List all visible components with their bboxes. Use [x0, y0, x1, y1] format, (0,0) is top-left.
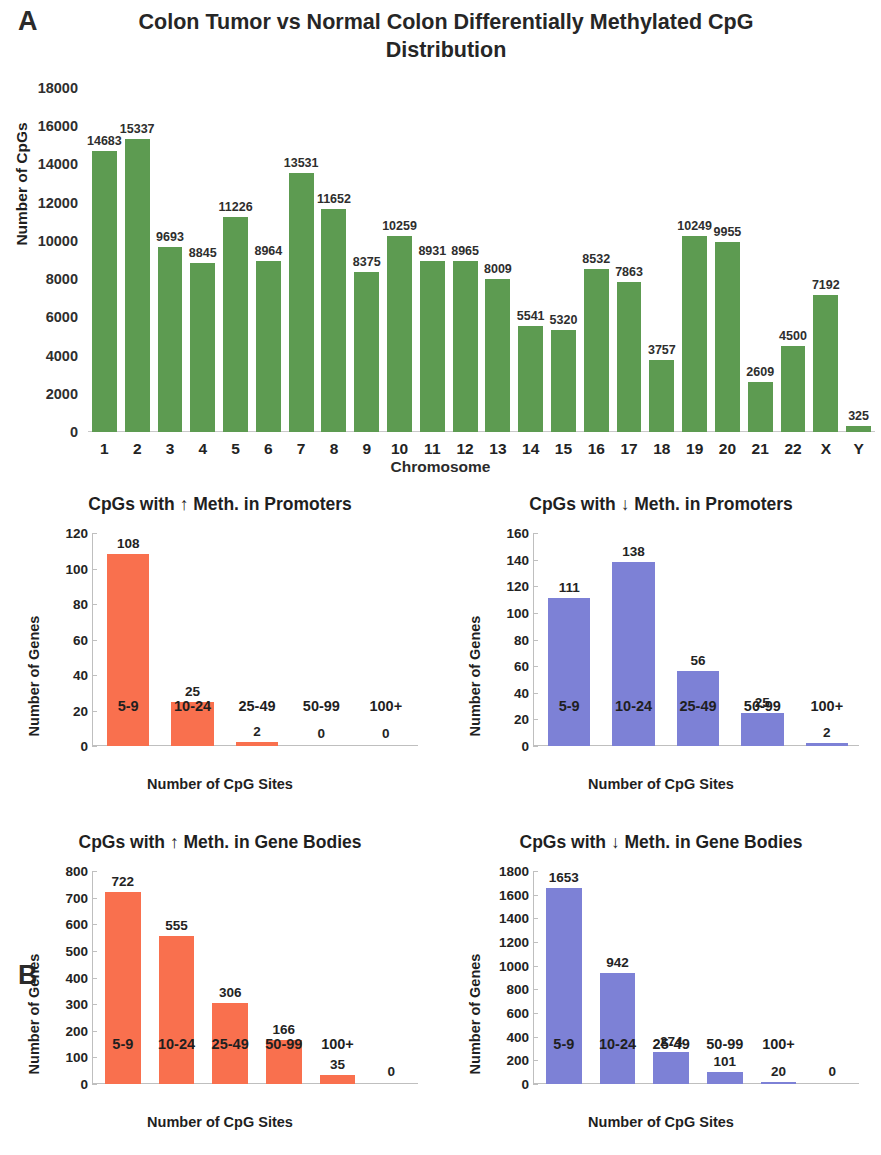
chart-a-bar [518, 326, 543, 432]
chart-bar [707, 1072, 742, 1084]
chart-a-value-label: 8931 [418, 244, 446, 258]
chart-a-value-label: 11226 [219, 200, 253, 214]
chart-a-bar-group: 8375 [350, 88, 383, 432]
chart-bar-group: 1653 [537, 871, 591, 1084]
chart-bar-group: 0 [289, 533, 353, 746]
chart-a-x-tick-label: 19 [686, 440, 703, 458]
chart-a-title: Colon Tumor vs Normal Colon Differential… [96, 8, 796, 65]
chart-a-x-tick-label: 17 [620, 440, 637, 458]
chart-a-value-label: 8965 [451, 244, 479, 258]
chart-a-bar-group: 10259 [383, 88, 416, 432]
chart-a-value-label: 8532 [582, 252, 610, 266]
chart-a-bar [321, 209, 346, 432]
chart-x-tick-label: 5-9 [559, 698, 580, 714]
chart-y-tick-label: 1600 [499, 887, 529, 902]
chart-value-label: 138 [622, 544, 645, 559]
chart-a-bar [256, 261, 281, 432]
chart-y-tick-label: 0 [521, 739, 529, 754]
chart-a-value-label: 325 [848, 409, 869, 423]
chart-y-tick-label: 120 [65, 526, 88, 541]
chart-a-value-label: 5320 [550, 313, 578, 327]
chart-a-bar [420, 261, 445, 432]
chart-a-bar-group: 8964 [252, 88, 285, 432]
chart-y-tick-label: 1800 [499, 864, 529, 879]
chart-a-value-label: 14683 [87, 134, 122, 148]
chart-a-value-label: 3757 [648, 343, 676, 357]
chart-a-value-label: 2609 [746, 365, 774, 379]
chart-a-value-label: 11652 [317, 192, 351, 206]
chart-y-tick-label: 500 [65, 943, 88, 958]
chart-bar-group: 20 [752, 871, 806, 1084]
chart-a-bar-group: 7863 [613, 88, 646, 432]
chart-bar [548, 598, 590, 746]
chart-a-value-label: 13531 [284, 156, 319, 170]
chart-x-tick-label: 5-9 [112, 1036, 133, 1052]
chart-a-bar-group: 4500 [777, 88, 810, 432]
chart-value-label: 0 [318, 726, 326, 741]
chart-value-label: 555 [165, 918, 188, 933]
y-axis-line [533, 871, 534, 1084]
chart-x-tick-label: 50-99 [744, 698, 781, 714]
chart-x-tick-label: 100+ [369, 698, 402, 714]
chart-a-bar-group: 8009 [482, 88, 515, 432]
chart-x-tick-label: 50-99 [303, 698, 340, 714]
chart-x-axis-title: Number of CpG Sites [441, 776, 881, 792]
chart-hyper-meth-gene-bodies: CpGs with ↑ Meth. in Gene Bodies Number … [0, 816, 440, 1154]
chart-value-label: 0 [382, 726, 390, 741]
chart-a-y-tick-label: 10000 [38, 233, 78, 249]
chart-y-tick-mark [533, 1084, 538, 1085]
chart-bar-group: 722 [96, 871, 150, 1084]
chart-bar [600, 973, 635, 1084]
chart-value-label: 2 [253, 724, 261, 739]
chart-y-tick-label: 300 [65, 997, 88, 1012]
chart-a-bar-group: 7192 [809, 88, 842, 432]
chart-plot-area: 1653942274101200 [537, 871, 859, 1084]
chart-a-x-tick-label: 18 [653, 440, 670, 458]
chart-a-value-label: 8845 [189, 246, 217, 260]
chart-a-bar [649, 360, 674, 432]
chart-a-value-label: 8964 [254, 244, 282, 258]
chart-y-tick-label: 80 [514, 632, 529, 647]
chart-a-x-tick-label: 21 [752, 440, 769, 458]
chart-plot-area: 11113856252 [537, 533, 859, 746]
chart-a-bar-group: 9955 [711, 88, 744, 432]
chart-a-bar [617, 282, 642, 432]
chart-a-bar [781, 346, 806, 432]
chart-x-tick-label: 10-24 [615, 698, 652, 714]
chart-bar-group: 0 [805, 871, 859, 1084]
chart-x-tick-label: 100+ [810, 698, 843, 714]
chart-a-bar [223, 217, 248, 432]
chart-a-bar-group: 9693 [154, 88, 187, 432]
chart-y-tick-label: 160 [506, 526, 529, 541]
chart-a-x-tick-label: 4 [198, 440, 207, 458]
chart-y-tick-label: 0 [521, 1077, 529, 1092]
chart-bar-group: 111 [537, 533, 601, 746]
chart-y-tick-label: 20 [73, 703, 88, 718]
chart-y-tick-label: 200 [506, 1053, 529, 1068]
chart-bar-group: 108 [96, 533, 160, 746]
chart-y-tick-label: 700 [65, 890, 88, 905]
chart-a-x-tick-label: 5 [231, 440, 240, 458]
chart-bar [761, 1082, 796, 1085]
chart-x-tick-label: 25-49 [679, 698, 716, 714]
chart-value-label: 722 [112, 874, 135, 889]
chart-a-x-tick-label: 9 [362, 440, 371, 458]
chart-a-value-label: 15337 [120, 122, 155, 136]
chart-a-bar [354, 272, 379, 432]
chart-bar-group: 35 [311, 871, 365, 1084]
chart-a-bar-group: 10249 [678, 88, 711, 432]
chart-a-x-tick-label: X [821, 440, 831, 458]
chart-value-label: 111 [559, 580, 580, 595]
chart-y-tick-label: 400 [65, 970, 88, 985]
chart-title: CpGs with ↑ Meth. in Gene Bodies [0, 832, 440, 853]
chart-a-y-tick-label: 14000 [38, 156, 78, 172]
chart-a-y-tick-label: 4000 [46, 348, 78, 364]
chart-value-label: 20 [771, 1064, 786, 1079]
chart-a-bar-group: 3757 [645, 88, 678, 432]
chart-x-tick-label: 5-9 [553, 1036, 574, 1052]
chart-bar-group: 25 [160, 533, 224, 746]
chart-a-x-tick-label: 14 [522, 440, 539, 458]
chart-a-bar [748, 382, 773, 432]
chart-y-tick-label: 40 [73, 668, 88, 683]
chart-a-y-axis: Number of CpGs 1800016000140001200010000… [0, 0, 88, 440]
